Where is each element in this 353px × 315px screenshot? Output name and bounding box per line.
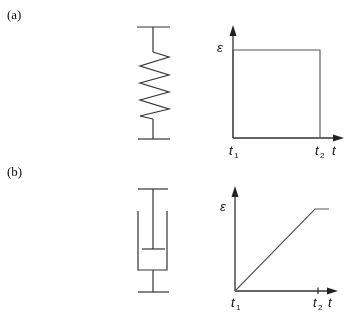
chart-b-tick-t2: t 2 (313, 295, 323, 312)
chart-b-y-arrow (232, 186, 239, 197)
figure: (a) ε t 1 t 2 t (0, 0, 353, 315)
chart-a-y-label: ε (217, 40, 223, 55)
chart-b-tick-t1: t 1 (231, 295, 241, 312)
chart-a-x-arrow (333, 135, 344, 142)
chart-b-strain-line (235, 209, 329, 291)
chart-b-x-label: t (328, 295, 333, 310)
chart-a-tick-t1: t 1 (229, 143, 239, 160)
chart-a-strain-line (233, 50, 320, 138)
spring-icon (137, 27, 170, 139)
chart-a-tick-t2-sub: 2 (320, 151, 325, 160)
panel-a: (a) ε t 1 t 2 t (7, 7, 344, 160)
chart-b-tick-t1-sub: 1 (236, 303, 241, 312)
chart-a-tick-t1-sub: 1 (234, 151, 239, 160)
panel-b-label: (b) (7, 164, 22, 179)
chart-a-y-arrow (230, 25, 237, 36)
chart-b-y-label: ε (220, 199, 226, 214)
chart-a-x-label: t (332, 143, 337, 158)
panel-b: (b) ε t 1 t 2 t (7, 164, 338, 312)
chart-a-tick-t2: t 2 (315, 143, 325, 160)
chart-b: ε t 1 t 2 t (220, 186, 338, 312)
dashpot-icon (138, 189, 169, 292)
chart-b-x-arrow (327, 288, 338, 295)
panel-a-label: (a) (7, 7, 21, 22)
chart-a: ε t 1 t 2 t (217, 25, 344, 160)
spring-coil (140, 52, 169, 119)
chart-b-tick-t2-sub: 2 (318, 303, 323, 312)
